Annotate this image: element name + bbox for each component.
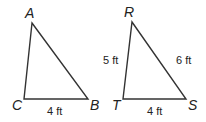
vertex-s-label: S — [188, 97, 198, 113]
vertex-b-label: B — [90, 97, 99, 113]
vertex-t-label: T — [112, 97, 122, 113]
side-cb-length: 4 ft — [47, 105, 62, 117]
side-ts-length: 4 ft — [147, 105, 162, 117]
side-rs-length: 6 ft — [176, 54, 191, 66]
triangles-diagram: A C B 4 ft R T S 5 ft 6 ft 4 ft — [0, 0, 206, 122]
triangle-abc-shape — [24, 23, 88, 99]
triangle-abc: A C B 4 ft — [12, 5, 99, 117]
vertex-c-label: C — [12, 97, 23, 113]
side-rt-length: 5 ft — [103, 54, 118, 66]
vertex-r-label: R — [124, 4, 134, 20]
triangle-rst: R T S 5 ft 6 ft 4 ft — [103, 4, 198, 117]
vertex-a-label: A — [24, 5, 34, 21]
